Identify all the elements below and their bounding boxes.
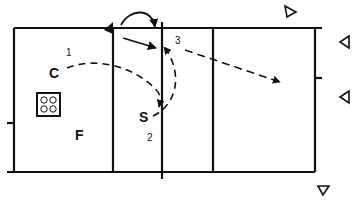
feeder-label: F — [75, 127, 84, 143]
entry-arrow — [123, 38, 156, 48]
setter-order: 2 — [147, 132, 153, 143]
loop-arrow — [121, 12, 155, 27]
target-triangle-down-icon — [318, 186, 329, 195]
coach-label: C — [49, 65, 59, 81]
target-triangle-left-icon — [340, 36, 349, 48]
attack-path-arrow — [185, 50, 280, 82]
target-triangle-left-icon — [340, 91, 349, 103]
set-path-arrow — [153, 47, 176, 116]
coach-order: 1 — [66, 47, 72, 58]
ball-cart-icon — [37, 93, 60, 116]
target-triangle-right-icon — [285, 6, 296, 17]
targets — [285, 6, 349, 195]
volleyball-court-diagram: C 1 S 2 F 3 — [0, 0, 354, 201]
setter-label: S — [139, 109, 148, 125]
step3-label: 3 — [175, 35, 181, 46]
